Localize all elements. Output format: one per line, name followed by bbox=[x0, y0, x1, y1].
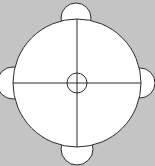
circular-plan-diagram bbox=[0, 0, 155, 166]
